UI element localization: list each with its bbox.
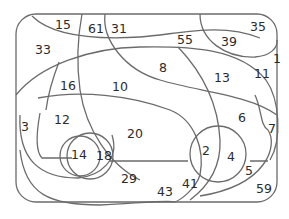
region-lines: 1561315539351338131116106731220241418529… (0, 0, 289, 219)
region-number: 3 (21, 119, 29, 134)
region-number: 5 (245, 163, 253, 178)
region-number: 15 (55, 17, 71, 32)
region-number: 10 (112, 79, 128, 94)
region-number: 20 (127, 126, 143, 141)
region-number: 43 (157, 184, 173, 199)
region-number: 16 (60, 78, 76, 93)
region-labels: 1561315539351338131116106731220241418529… (21, 17, 281, 199)
region-number: 61 (88, 21, 104, 36)
region-number: 8 (159, 60, 167, 75)
puzzle-diagram: 1561315539351338131116106731220241418529… (0, 0, 289, 219)
region-number: 55 (177, 32, 193, 47)
region-number: 6 (238, 110, 246, 125)
region-number: 13 (214, 70, 230, 85)
region-number: 11 (254, 66, 270, 81)
region-number: 31 (111, 21, 127, 36)
region-number: 12 (54, 112, 70, 127)
region-number: 59 (256, 181, 272, 196)
region-number: 35 (250, 19, 266, 34)
region-number: 41 (182, 176, 198, 191)
region-number: 14 (71, 147, 87, 162)
region-number: 33 (35, 42, 51, 57)
region-number: 7 (268, 121, 276, 136)
curve (38, 94, 201, 202)
region-number: 29 (121, 171, 137, 186)
circle (190, 126, 246, 182)
region-number: 2 (202, 143, 210, 158)
region-number: 18 (96, 148, 112, 163)
region-number: 4 (227, 149, 235, 164)
region-number: 39 (221, 34, 237, 49)
curve (16, 47, 278, 160)
region-number: 1 (273, 51, 281, 66)
